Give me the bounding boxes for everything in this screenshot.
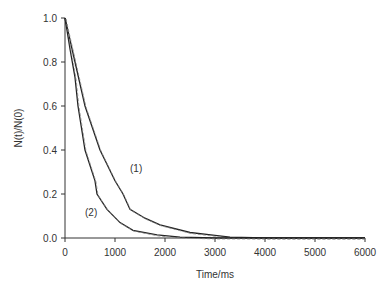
y-tick-label: 0.4	[43, 145, 57, 156]
data-series	[65, 18, 366, 239]
y-axis-ticks: 0.00.20.40.60.81.0	[43, 13, 65, 244]
x-tick-label: 1000	[104, 247, 127, 258]
series-fit-1	[66, 19, 366, 239]
x-tick-label: 0	[62, 247, 68, 258]
curve-label: (2)	[85, 207, 97, 218]
x-tick-label: 4000	[254, 247, 277, 258]
y-tick-label: 1.0	[43, 13, 57, 24]
y-tick-label: 0.6	[43, 101, 57, 112]
curve-label: (1)	[130, 163, 142, 174]
x-axis-label: Time/ms	[196, 269, 234, 280]
series-line-1	[65, 18, 365, 238]
curve-annotations: (1)(2)	[85, 163, 142, 218]
decay-chart: 0.00.20.40.60.81.0 010002000300040005000…	[0, 0, 391, 297]
y-axis-label: N(t)/N(0)	[13, 109, 24, 148]
x-tick-label: 6000	[354, 247, 377, 258]
series-line-2	[65, 18, 365, 238]
y-tick-label: 0.0	[43, 233, 57, 244]
y-tick-label: 0.8	[43, 57, 57, 68]
x-tick-label: 5000	[304, 247, 327, 258]
axes	[65, 18, 365, 238]
x-tick-label: 3000	[204, 247, 227, 258]
x-tick-label: 2000	[154, 247, 177, 258]
y-tick-label: 0.2	[43, 189, 57, 200]
x-axis-ticks: 0100020003000400050006000	[62, 238, 376, 258]
series-fit-2	[66, 19, 366, 239]
